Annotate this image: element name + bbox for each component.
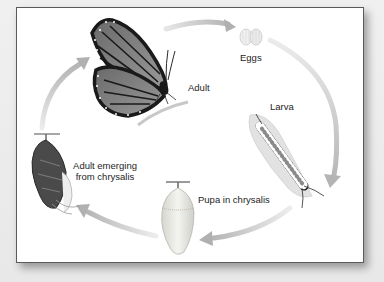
arrow-larva-to-pupa bbox=[199, 208, 290, 246]
eggs-illustration bbox=[240, 29, 262, 45]
arrow-pupa-to-emerging bbox=[76, 204, 156, 236]
life-cycle-diagram bbox=[0, 0, 384, 282]
pupa-chrysalis-illustration bbox=[162, 182, 194, 254]
label-adult: Adult bbox=[188, 82, 210, 93]
label-emerging: Adult emerging from chrysalis bbox=[70, 160, 140, 182]
label-eggs: Eggs bbox=[240, 52, 262, 63]
label-emerging-line2: from chrysalis bbox=[70, 171, 140, 182]
label-emerging-line1: Adult emerging bbox=[70, 160, 140, 171]
arrow-adult-to-eggs bbox=[166, 19, 236, 32]
label-larva: Larva bbox=[270, 101, 294, 112]
adult-butterfly-illustration bbox=[92, 20, 188, 125]
label-pupa: Pupa in chrysalis bbox=[198, 194, 270, 205]
arrow-emerging-to-adult bbox=[42, 57, 90, 128]
